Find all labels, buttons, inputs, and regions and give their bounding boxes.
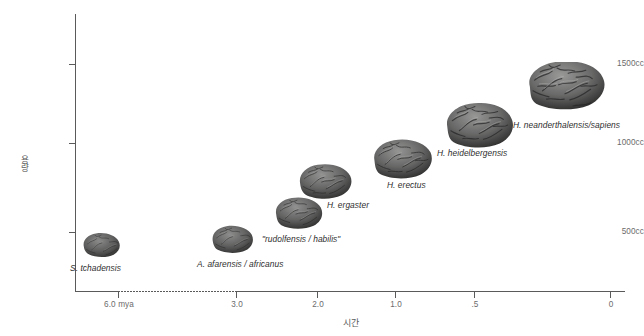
data-point-marker [209,224,255,255]
x-axis-dotted-segment [118,291,237,292]
species-label: H. neanderthalensis/sapiens [513,120,620,130]
x-axis-title: 시간 [343,316,360,329]
species-label: "rudolfensis / habilis" [262,234,340,244]
brain-icon [80,231,122,259]
x-tick-mark-0 [610,291,611,298]
y-axis-title: 용량 [19,155,28,171]
y-tick-mark-500 [69,232,76,233]
y-tick-mark-1500 [69,64,76,65]
x-tick-mark-2.0 [317,291,318,298]
y-axis-line [75,14,76,292]
x-axis-line-right [236,291,625,292]
y-tick-label-500: 500cc [580,227,644,236]
species-label: H. erectus [387,180,426,190]
brain-icon [370,139,433,181]
y-tick-label-1000: 1000cc [580,138,644,147]
brain-icon [296,163,353,201]
species-label: H. ergaster [327,200,369,210]
brain-icon [525,62,605,112]
x-tick-mark-1.0 [395,291,396,298]
x-tick-label-2.0: 2.0 [312,300,324,309]
brain-icon [272,196,324,231]
x-tick-label-6.0: 6.0 mya [104,300,134,309]
x-axis-line-left [75,291,119,292]
species-label: S. tchadensis [70,263,121,273]
x-tick-mark-6.0 [118,291,119,298]
x-tick-mark-3.0 [236,291,237,298]
data-point-marker [443,103,514,150]
x-tick-mark-0.5 [474,291,475,298]
y-tick-mark-1000 [69,143,76,144]
species-label: H. heidelbergensis [437,148,507,158]
brain-icon [443,103,514,150]
species-label: A. afarensis / africanus [197,259,283,269]
x-tick-label-0.5: .5 [471,300,478,309]
data-point-marker [272,196,324,231]
brain-evolution-chart: 1500cc 1000cc 500cc 용량 6.0 mya 3.0 2.0 1… [0,0,644,336]
x-tick-label-0: 0 [609,300,614,309]
brain-icon [209,224,255,255]
data-point-marker [80,231,122,259]
x-tick-label-3.0: 3.0 [231,300,243,309]
x-tick-label-1.0: 1.0 [390,300,402,309]
data-point-marker [525,62,605,112]
data-point-marker [296,163,353,201]
data-point-marker [370,139,433,181]
